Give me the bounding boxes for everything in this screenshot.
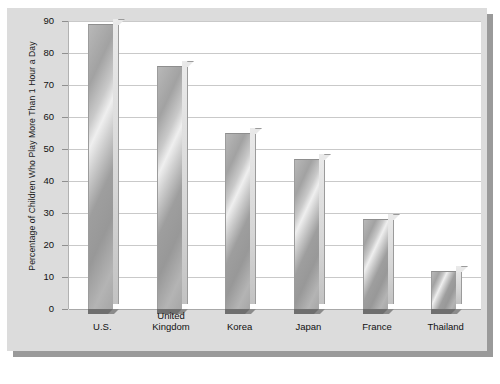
bar [225,133,250,309]
bar-side-face [319,154,325,304]
y-tick-label-40: 40 [14,176,54,186]
y-tick-label-10: 10 [14,272,54,282]
plot-area [68,21,481,309]
bar-front-face [157,66,182,309]
y-tick-label-0: 0 [14,304,54,314]
gridline-80 [69,53,481,54]
bar-front-face [294,159,319,309]
gridline-70 [69,85,481,86]
gridline-30 [69,213,481,214]
gridline-60 [69,117,481,118]
y-tick-label-90: 90 [14,16,54,26]
y-tick-label-30: 30 [14,208,54,218]
y-tick-label-80: 80 [14,48,54,58]
chart-panel: Percentage of Children Who Play More Tha… [7,8,487,351]
y-tick-label-50: 50 [14,144,54,154]
bar-side-face [250,128,256,304]
bar-side-face [182,61,188,304]
bar [431,271,456,309]
bar [294,159,319,309]
gridline-90 [69,21,481,22]
y-tick-label-20: 20 [14,240,54,250]
gridline-40 [69,181,481,182]
bar-front-face [431,271,456,309]
gridline-50 [69,149,481,150]
bar-front-face [225,133,250,309]
gridline-20 [69,245,481,246]
x-axis-label: Thailand [401,321,491,333]
bar-side-face [113,19,119,304]
bar [363,219,388,309]
chart-figure: Percentage of Children Who Play More Tha… [0,0,500,384]
bar [88,24,113,309]
bar-front-face [363,219,388,309]
bar-front-face [88,24,113,309]
y-tick-label-70: 70 [14,80,54,90]
y-tick-label-60: 60 [14,112,54,122]
gridline-10 [69,277,481,278]
bar-side-face [388,214,394,304]
bar [157,66,182,309]
